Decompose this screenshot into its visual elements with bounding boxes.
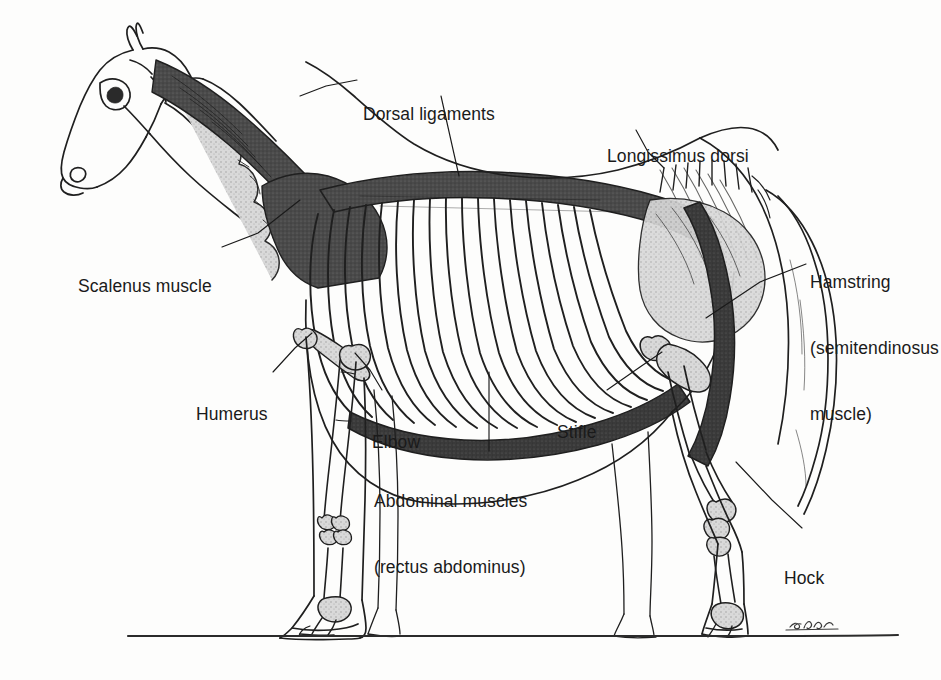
label-line: (semitendinosus [810, 337, 939, 359]
label-line: muscle) [810, 403, 939, 425]
leader-dorsal-left [300, 80, 357, 96]
label-line: Stifle [557, 421, 597, 443]
leader-hock [736, 462, 802, 528]
label-hamstring-semitendinosus: Hamstring (semitendinosus muscle) [810, 227, 939, 469]
label-line: (rectus abdominus) [374, 556, 527, 578]
sacral-vertebrae [752, 176, 770, 218]
label-line: Scalenus muscle [78, 275, 212, 297]
label-line: Hamstring [810, 271, 939, 293]
label-dorsal-ligaments: Dorsal ligaments [363, 59, 495, 169]
label-stifle: Stifle [557, 377, 597, 487]
label-scalenus-muscle: Scalenus muscle [78, 231, 212, 341]
label-humerus: Humerus [196, 359, 268, 469]
foreleg-contour [280, 337, 366, 640]
leader-humerus [273, 333, 312, 372]
label-line: Humerus [196, 403, 268, 425]
label-longissimus-dorsi: Longissimus dorsi [607, 101, 749, 211]
ground-line [128, 635, 898, 636]
anatomy-figure: Scalenus muscle Dorsal ligaments Longiss… [0, 0, 941, 680]
label-abdominal-muscles: Abdominal muscles (rectus abdominus) [374, 446, 527, 622]
label-line: Abdominal muscles [374, 490, 527, 512]
label-line: Longissimus dorsi [607, 145, 749, 167]
label-hock: Hock [784, 523, 824, 633]
leader-stifle [607, 352, 662, 390]
label-line: Hock [784, 567, 824, 589]
far-hindleg-contour [612, 432, 656, 638]
label-line: Dorsal ligaments [363, 103, 495, 125]
forelimb-skeleton [293, 328, 370, 636]
